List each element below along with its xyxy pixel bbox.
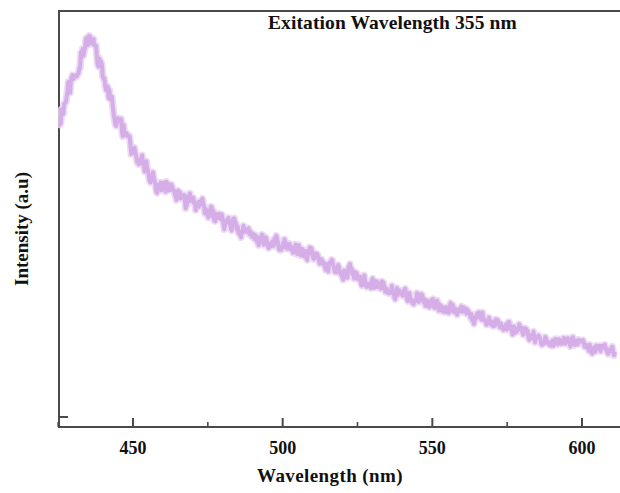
x-axis-label: Wavelength (nm): [150, 465, 510, 487]
emission-curve-path: [60, 36, 615, 356]
y-axis-label: Intensity (a.u): [11, 129, 33, 329]
x-tick-label-450: 450: [103, 438, 163, 459]
x-tick-label-500: 500: [253, 438, 313, 459]
chart-title: Exitation Wavelength 355 nm: [268, 12, 517, 34]
x-tick-label-600: 600: [552, 438, 612, 459]
emission-curve-halo: [60, 36, 615, 356]
emission-curve: [58, 10, 617, 428]
plot-area: [58, 10, 617, 428]
x-tick-label-550: 550: [402, 438, 462, 459]
